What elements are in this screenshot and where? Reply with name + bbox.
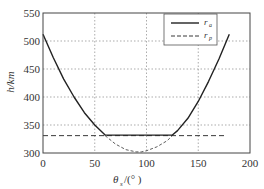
- plot-lines: [43, 34, 229, 152]
- y-tick-label: 550: [24, 7, 41, 19]
- legend-sub-ra: a: [209, 22, 212, 28]
- y-axis-ticks: 300350400450500550: [24, 7, 41, 159]
- x-axis-label-main: θ: [113, 173, 119, 185]
- x-tick-label: 200: [242, 157, 259, 169]
- x-tick-label: 100: [138, 157, 155, 169]
- legend: r a r p: [164, 14, 217, 45]
- y-tick-label: 500: [24, 35, 41, 47]
- y-tick-label: 450: [24, 63, 41, 75]
- grid-lines: [43, 13, 250, 153]
- series-ra-line: [43, 34, 229, 135]
- legend-label-ra: r: [204, 17, 208, 27]
- x-axis-label: θ s /(° ): [113, 173, 142, 188]
- y-tick-label: 300: [24, 147, 41, 159]
- y-tick-label: 350: [24, 119, 41, 131]
- y-tick-label: 400: [24, 91, 41, 103]
- x-tick-label: 50: [89, 157, 101, 169]
- series-rp-dip: [105, 136, 172, 152]
- y-axis-label: h/km: [4, 71, 16, 92]
- legend-label-rp: r: [204, 30, 208, 40]
- x-axis-label-unit: /(° ): [124, 173, 142, 186]
- x-tick-label: 150: [190, 157, 207, 169]
- legend-sub-rp: p: [208, 35, 212, 41]
- x-axis-label-sub: s: [120, 180, 123, 188]
- x-tick-label: 0: [40, 157, 46, 169]
- chart: 300350400450500550 050100150200 h/km θ s…: [0, 0, 264, 189]
- x-axis-ticks: 050100150200: [40, 157, 259, 169]
